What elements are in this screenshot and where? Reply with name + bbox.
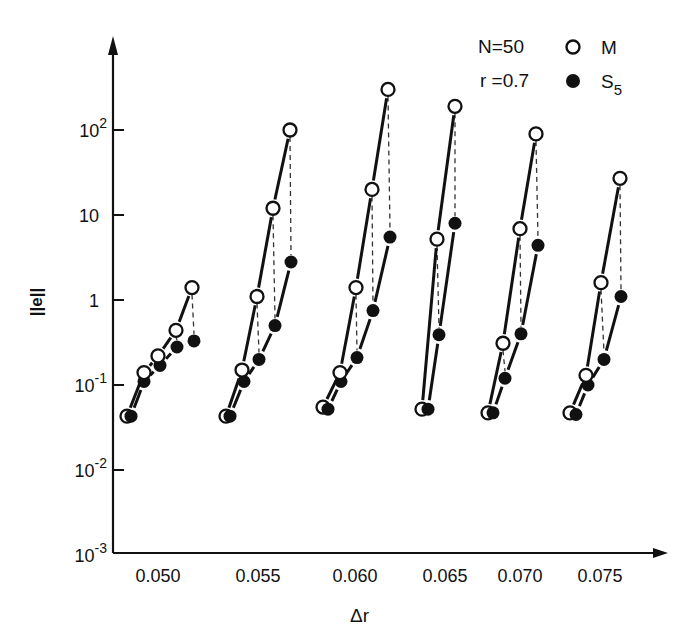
m-line [357,198,370,278]
m-point [514,222,527,235]
y-tick-label: 10-2 [75,455,108,481]
m-line [521,143,534,220]
x-tick-label: 0.060 [332,566,377,586]
m-point [186,281,199,294]
dashed-connector [257,303,259,352]
legend: N=50 r =0.7 M S5 [478,36,622,98]
m-point [366,183,379,196]
m-line [259,217,272,288]
m-point [138,366,151,379]
dashed-connector [536,141,538,238]
m-line [603,187,619,274]
s5-line [277,271,289,317]
s5-point [384,231,397,244]
s5-point [188,334,201,347]
m-point [170,324,183,337]
m-point [497,337,510,350]
s5-line [332,390,337,401]
s5-point [351,351,364,364]
x-tick-label: 0.070 [497,566,542,586]
s5-line [375,246,388,302]
s5-point [615,290,628,303]
s5-line [496,387,502,405]
s5-line [249,367,254,374]
filled-circle-icon [566,74,580,88]
s5-line [263,334,271,352]
dashed-connector [620,185,621,289]
y-tick-label: 10-3 [75,540,108,566]
x-tick-label: 0.050 [135,566,180,586]
s5-point [449,217,462,230]
m-point [267,202,280,215]
s5-point [598,353,611,366]
s5-point [532,239,545,252]
m-point [614,172,627,185]
y-axis-arrow-icon [108,36,118,55]
dashed-connector [372,196,373,303]
m-point [334,366,347,379]
annotation-n: N=50 [478,36,524,57]
m-line [504,238,518,335]
dashed-connector [290,137,291,255]
dashed-connector [273,215,275,318]
group-dr-0.055 [220,124,298,423]
s5-point [433,328,446,341]
m-point [595,276,608,289]
group-dr-0.070 [482,127,545,419]
m-point [284,124,297,137]
m-point [449,100,462,113]
s5-line [606,305,618,351]
s5-point [515,327,528,340]
m-line [438,115,454,230]
s5-line [166,354,171,359]
group-dr-0.050 [121,281,201,423]
group-dr-0.060 [317,83,397,416]
m-point [530,127,543,140]
x-tick-label: 0.075 [577,566,622,586]
s5-line [593,367,599,377]
m-line [179,296,189,322]
open-circle-icon [567,41,580,54]
y-ticks: 10210110-110-210-3 [75,115,124,566]
s5-point [367,304,380,317]
dashed-connector [356,295,357,351]
s5-point [171,340,184,353]
legend-label-m: M [601,37,617,58]
m-line [373,98,386,180]
dashed-connector [437,246,439,328]
y-axis-label: ||e|| [27,288,46,316]
s5-line [440,232,453,326]
annotation-r: r =0.7 [480,70,529,91]
m-line [587,292,599,367]
m-line [163,338,171,349]
m-point [382,83,395,96]
m-point [431,233,444,246]
m-line [150,363,152,366]
s5-line [579,393,584,406]
y-tick-label: 102 [79,115,107,141]
x-tick-labels: 0.0500.0550.0600.0650.0700.075 [135,566,622,586]
m-point [251,290,264,303]
y-tick-label: 10 [79,206,99,226]
s5-point [269,319,282,332]
x-tick-label: 0.055 [235,566,280,586]
m-line [275,139,288,200]
chart: 10210110-110-210-3 0.0500.0550.0600.0650… [0,0,699,644]
y-tick-label: 10-1 [75,370,108,396]
x-axis-label: Δr [350,605,370,626]
m-line [244,305,255,361]
series [121,83,628,423]
dashed-connector [192,295,194,334]
m-point [580,369,593,382]
s5-point [285,255,298,268]
dashed-connector [503,350,505,371]
m-point [350,281,363,294]
group-dr-0.065 [416,100,462,416]
dashed-connector [388,96,390,230]
x-tick-label: 0.065 [422,566,467,586]
y-tick-label: 1 [89,291,99,311]
dashed-connector [601,290,604,353]
s5-line [360,319,370,349]
s5-line [523,254,537,325]
group-dr-0.075 [564,172,628,421]
